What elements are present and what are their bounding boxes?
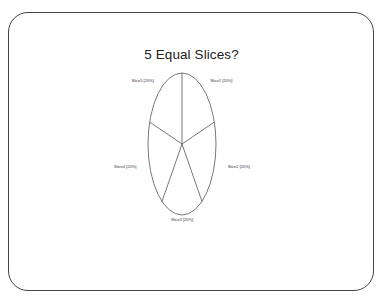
- slice-label-1: Slice1 [20%]: [210, 78, 232, 83]
- slice-label-5: Slice5 [20%]: [132, 78, 154, 83]
- pie-chart: Slice1 [20%]Slice2 [20%]Slice3 [20%]Slic…: [0, 0, 383, 299]
- pie-group: [148, 73, 216, 215]
- slice-label-4: Slice4 [20%]: [114, 164, 136, 169]
- slice-label-2: Slice2 [20%]: [228, 164, 250, 169]
- slice-label-3: Slice3 [20%]: [171, 217, 193, 222]
